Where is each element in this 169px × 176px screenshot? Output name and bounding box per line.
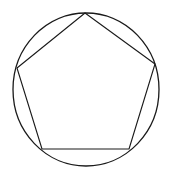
circumscribed-circle [13, 13, 159, 166]
inscribed-pentagon [17, 13, 155, 149]
pentagon-in-circle-diagram [0, 0, 169, 176]
